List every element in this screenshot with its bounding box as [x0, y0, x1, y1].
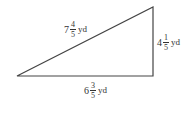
right-side-fraction: 1 5 — [163, 33, 169, 52]
right-side-whole: 4 — [157, 38, 162, 48]
right-side-numerator: 1 — [163, 33, 169, 43]
bottom-side-label: 6 3 5 yd — [84, 81, 107, 100]
right-side-label: 4 1 5 yd — [157, 33, 180, 52]
bottom-side-unit: yd — [98, 86, 107, 95]
bottom-side-whole: 6 — [84, 86, 89, 96]
triangle-shape — [17, 7, 153, 76]
hypotenuse-denominator: 5 — [71, 30, 75, 39]
hypotenuse-fraction: 4 5 — [70, 20, 76, 39]
bottom-side-denominator: 5 — [91, 91, 95, 100]
bottom-side-numerator: 3 — [90, 81, 96, 91]
hypotenuse-whole: 7 — [64, 25, 69, 35]
hypotenuse-unit: yd — [78, 25, 87, 34]
right-side-unit: yd — [171, 38, 180, 47]
hypotenuse-numerator: 4 — [70, 20, 76, 30]
hypotenuse-label: 7 4 5 yd — [64, 20, 87, 39]
bottom-side-fraction: 3 5 — [90, 81, 96, 100]
right-side-denominator: 5 — [164, 43, 168, 52]
